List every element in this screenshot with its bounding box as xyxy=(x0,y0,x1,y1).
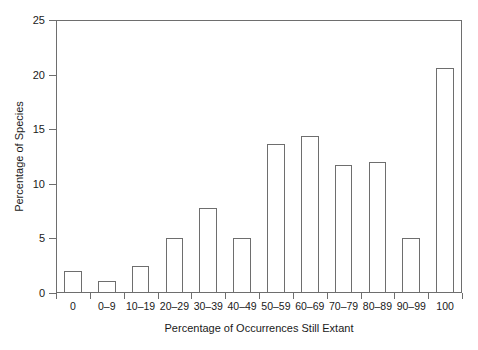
x-axis-tick xyxy=(394,293,395,299)
y-axis-tick xyxy=(49,184,56,185)
x-axis-tick-label: 10–19 xyxy=(126,300,155,312)
y-axis-tick xyxy=(49,75,56,76)
x-axis-tick-label: 0–9 xyxy=(98,300,116,312)
bar xyxy=(369,162,387,293)
y-axis-tick-label: 15 xyxy=(5,123,45,135)
bar xyxy=(166,238,184,293)
x-axis-tick xyxy=(259,293,260,299)
x-axis-title: Percentage of Occurrences Still Extant xyxy=(56,322,462,334)
x-axis-tick-label: 80–89 xyxy=(363,300,392,312)
y-axis-tick-label: 25 xyxy=(5,14,45,26)
x-axis-tick-label: 60–69 xyxy=(295,300,324,312)
x-axis-tick xyxy=(293,293,294,299)
x-axis-tick xyxy=(56,293,57,299)
x-axis-tick xyxy=(225,293,226,299)
bar xyxy=(402,238,420,293)
x-axis-tick xyxy=(361,293,362,299)
x-axis-tick xyxy=(90,293,91,299)
y-axis-tick-label: 10 xyxy=(5,178,45,190)
plot-area xyxy=(56,20,462,293)
x-axis-tick-label: 20–29 xyxy=(160,300,189,312)
x-axis-tick-label: 100 xyxy=(436,300,454,312)
y-axis-tick xyxy=(49,20,56,21)
x-axis-tick xyxy=(158,293,159,299)
bar xyxy=(64,271,82,293)
x-axis-tick xyxy=(428,293,429,299)
y-axis-tick xyxy=(49,129,56,130)
x-axis-tick xyxy=(191,293,192,299)
bar xyxy=(267,144,285,293)
x-axis-tick-label: 0 xyxy=(70,300,76,312)
x-axis-tick xyxy=(327,293,328,299)
x-axis-tick-label: 50–59 xyxy=(261,300,290,312)
bar xyxy=(436,68,454,293)
x-axis-tick-label: 90–99 xyxy=(397,300,426,312)
bar xyxy=(98,281,116,293)
bar xyxy=(301,136,319,293)
bar xyxy=(335,165,353,293)
y-axis-tick-label: 5 xyxy=(5,232,45,244)
bar xyxy=(199,208,217,293)
y-axis-tick-label: 0 xyxy=(5,287,45,299)
bar xyxy=(132,266,150,293)
x-axis-tick xyxy=(124,293,125,299)
x-axis-tick-label: 70–79 xyxy=(329,300,358,312)
bar xyxy=(233,238,251,293)
x-axis-tick xyxy=(462,293,463,299)
y-axis-tick xyxy=(49,238,56,239)
x-axis-tick-label: 40–49 xyxy=(227,300,256,312)
y-axis-tick-label: 20 xyxy=(5,69,45,81)
y-axis-tick xyxy=(49,293,56,294)
x-axis-tick-label: 30–39 xyxy=(194,300,223,312)
y-axis-title: Percentage of Species xyxy=(10,20,28,293)
histogram-figure: Percentage of Species 0510152025 00–910–… xyxy=(0,0,478,350)
